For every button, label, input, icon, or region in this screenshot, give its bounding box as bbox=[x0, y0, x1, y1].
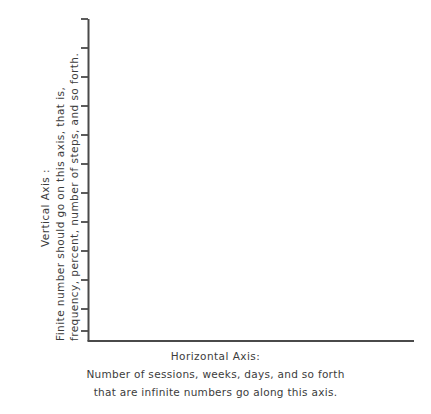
vertical-axis-caption: Vertical Axis : Finite number should go … bbox=[0, 0, 80, 345]
axis-template-figure: Vertical Axis : Finite number should go … bbox=[0, 0, 431, 414]
vertical-axis-heading: Vertical Axis : bbox=[40, 169, 51, 247]
horizontal-axis-description-line-2: that are infinite numbers go along this … bbox=[0, 383, 431, 401]
vertical-axis-ticks bbox=[81, 19, 88, 331]
horizontal-axis-caption: Horizontal Axis: Number of sessions, wee… bbox=[0, 347, 431, 401]
horizontal-axis-description-line-1: Number of sessions, weeks, days, and so … bbox=[0, 365, 431, 383]
horizontal-axis-heading: Horizontal Axis: bbox=[0, 347, 431, 365]
vertical-axis-description-line-2: frequency, percent, number of steps, and… bbox=[69, 53, 80, 341]
vertical-axis-description-line-1: Finite number should go on this axis, th… bbox=[55, 87, 66, 341]
